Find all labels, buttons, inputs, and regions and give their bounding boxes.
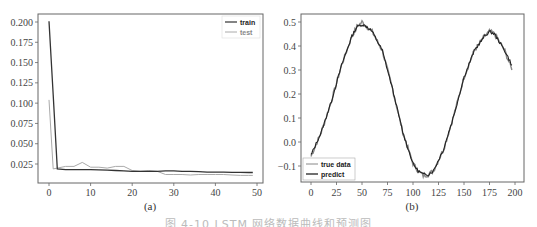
x-tick-label: 25: [332, 187, 342, 198]
legend-b: true data predict: [303, 158, 355, 180]
axes-frame-b: [301, 14, 524, 182]
figure-canvas: 0.0250.0500.0750.1000.1250.1500.1750.200…: [0, 0, 537, 227]
x-tick-label: 175: [482, 187, 497, 198]
axes-frame-a: [38, 14, 263, 183]
x-tick-label: 150: [457, 187, 472, 198]
y-tick-label: 0.025: [11, 159, 34, 170]
x-tick-label: 0: [47, 187, 52, 198]
x-axis-a: 01020304050: [47, 183, 263, 198]
x-tick-label: 10: [86, 187, 96, 198]
x-tick-label: 100: [406, 187, 421, 198]
x-axis-b: 0255075100125150175200: [309, 182, 523, 198]
y-tick-label: 0.175: [11, 37, 34, 48]
figure-caption: 图 4-10 LSTM 网络数据曲线和预测图: [0, 215, 537, 227]
y-tick-label: 0.4: [284, 41, 297, 52]
legend-label-predict: predict: [321, 171, 345, 179]
legend-a: train test: [222, 16, 260, 38]
x-tick-label: 30: [169, 187, 179, 198]
loss-chart: 0.0250.0500.0750.1000.1250.1500.1750.200…: [11, 14, 264, 213]
legend-label-true-data: true data: [321, 161, 351, 168]
legend-label-test: test: [240, 29, 253, 36]
y-tick-label: −0.1: [278, 161, 296, 172]
x-tick-label: 50: [252, 187, 262, 198]
x-tick-label: 50: [357, 187, 367, 198]
x-tick-label: 75: [383, 187, 393, 198]
subfigure-label-a: (a): [144, 200, 157, 213]
y-axis-b: −0.10.00.10.20.30.40.5: [278, 17, 301, 172]
y-tick-label: 0.075: [11, 118, 34, 129]
y-tick-label: 0.150: [11, 57, 34, 68]
y-tick-label: 0.200: [11, 17, 34, 28]
y-tick-label: 0.1: [284, 113, 297, 124]
x-tick-label: 40: [210, 187, 220, 198]
prediction-chart: −0.10.00.10.20.30.40.5 02550751001251501…: [278, 14, 524, 213]
y-axis-a: 0.0250.0500.0750.1000.1250.1500.1750.200: [11, 17, 39, 170]
y-tick-label: 0.100: [11, 98, 34, 109]
subfigure-label-b: (b): [406, 200, 419, 213]
x-tick-label: 20: [127, 187, 137, 198]
x-tick-label: 125: [431, 187, 446, 198]
y-tick-label: 0.5: [284, 17, 297, 28]
legend-label-train: train: [240, 19, 255, 26]
y-tick-label: 0.3: [284, 65, 297, 76]
y-tick-label: 0.2: [284, 89, 297, 100]
x-tick-label: 0: [309, 187, 314, 198]
y-tick-label: 0.0: [284, 137, 297, 148]
x-tick-label: 200: [508, 187, 523, 198]
y-tick-label: 0.050: [11, 138, 34, 149]
y-tick-label: 0.125: [11, 77, 34, 88]
